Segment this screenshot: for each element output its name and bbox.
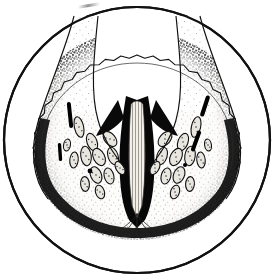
figure-root [0, 0, 275, 277]
dark-dot [88, 169, 93, 174]
specimen-illustration [0, 0, 275, 277]
central-striated-column [129, 101, 145, 218]
dark-dot [183, 163, 187, 167]
central-column-body [129, 101, 145, 218]
